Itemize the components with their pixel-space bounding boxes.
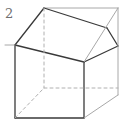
figure-background bbox=[0, 0, 123, 125]
open-cube-diagram bbox=[0, 0, 123, 125]
figure-container: 2 bbox=[0, 0, 123, 125]
figure-number-label: 2 bbox=[5, 7, 13, 20]
